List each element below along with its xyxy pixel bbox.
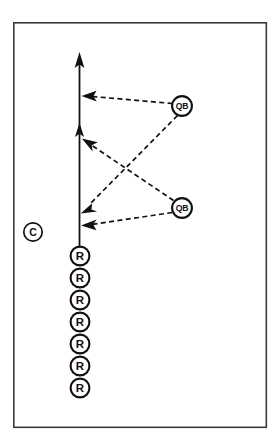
- receiver-marker-5[interactable]: R: [71, 335, 90, 354]
- play-diagram-root: C QB QB R R R R R: [0, 0, 279, 446]
- receiver-5-circle: [71, 335, 90, 354]
- receiver-marker-6[interactable]: R: [71, 357, 90, 376]
- quarterback-top-circle: [172, 96, 192, 116]
- quarterback-bottom-circle: [172, 198, 192, 218]
- receiver-4-circle: [71, 313, 90, 332]
- receiver-6-circle: [71, 357, 90, 376]
- quarterback-marker-bottom[interactable]: QB: [172, 198, 192, 218]
- receiver-marker-1[interactable]: R: [71, 247, 90, 266]
- receiver-2-circle: [71, 269, 90, 288]
- receiver-marker-3[interactable]: R: [71, 291, 90, 310]
- receiver-3-circle: [71, 291, 90, 310]
- receiver-marker-4[interactable]: R: [71, 313, 90, 332]
- play-diagram-canvas: C QB QB R R R R R: [0, 0, 279, 446]
- coach-marker-circle: [24, 223, 42, 241]
- receiver-marker-7[interactable]: R: [71, 379, 90, 398]
- field-border: [14, 23, 266, 428]
- coach-marker[interactable]: C: [24, 223, 42, 241]
- receiver-marker-2[interactable]: R: [71, 269, 90, 288]
- receiver-1-circle: [71, 247, 90, 266]
- quarterback-marker-top[interactable]: QB: [172, 96, 192, 116]
- receiver-7-circle: [71, 379, 90, 398]
